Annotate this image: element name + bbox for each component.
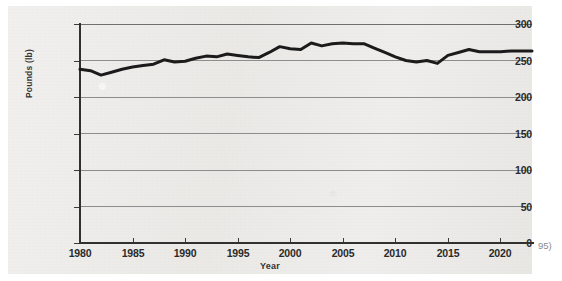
data-series-line — [80, 43, 532, 75]
chart-figure-panel: Pounds (lb) 300250200150100500 198019851… — [8, 6, 532, 274]
page-root: Pounds (lb) 300250200150100500 198019851… — [0, 0, 562, 281]
x-axis-title: Year — [8, 261, 532, 271]
chart-plot-svg — [8, 6, 532, 274]
margin-question-number: 95) — [538, 240, 552, 251]
